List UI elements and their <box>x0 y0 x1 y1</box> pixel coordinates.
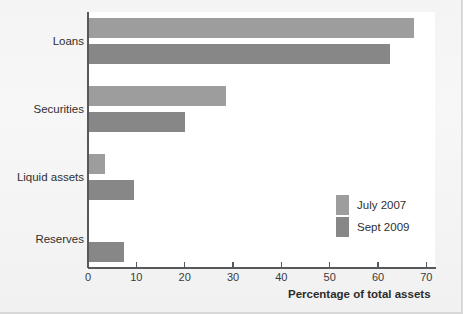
y-axis-category-labels: LoansSecuritiesLiquid assetsReserves <box>0 0 84 314</box>
category-label-liquid-assets: Liquid assets <box>2 171 84 183</box>
x-tick-label-10: 10 <box>130 271 142 283</box>
x-tick-60 <box>377 262 379 268</box>
bar-loans-sept-2009 <box>88 44 390 64</box>
legend-label-july-2007: July 2007 <box>357 199 406 211</box>
x-tick-label-40: 40 <box>275 271 287 283</box>
x-tick-10 <box>136 262 138 268</box>
x-tick-40 <box>281 262 283 268</box>
x-tick-label-0: 0 <box>85 271 91 283</box>
legend-label-sept-2009: Sept 2009 <box>357 221 409 233</box>
bar-loans-july-2007 <box>88 18 414 38</box>
x-axis-line <box>88 267 436 269</box>
category-label-reserves: Reserves <box>2 233 84 245</box>
x-tick-label-30: 30 <box>227 271 239 283</box>
x-tick-70 <box>426 262 428 268</box>
legend-item-sept-2009[interactable]: Sept 2009 <box>336 216 409 238</box>
legend: July 2007 Sept 2009 <box>336 194 409 238</box>
x-tick-label-50: 50 <box>324 271 336 283</box>
bar-securities-sept-2009 <box>88 112 185 132</box>
y-axis-line <box>87 12 89 268</box>
x-axis-title: Percentage of total assets <box>288 288 431 300</box>
category-label-loans: Loans <box>2 35 84 47</box>
legend-swatch-july-2007 <box>336 195 349 215</box>
bar-liquid-assets-july-2007 <box>88 154 105 174</box>
bar-liquid-assets-sept-2009 <box>88 180 134 200</box>
legend-swatch-sept-2009 <box>336 217 349 237</box>
x-tick-50 <box>329 262 331 268</box>
x-tick-0 <box>87 262 89 268</box>
x-tick-label-70: 70 <box>420 271 432 283</box>
bar-securities-july-2007 <box>88 86 226 106</box>
x-tick-label-60: 60 <box>372 271 384 283</box>
x-tick-label-20: 20 <box>179 271 191 283</box>
x-tick-30 <box>232 262 234 268</box>
bar-reserves-sept-2009 <box>88 242 124 262</box>
bar-chart-figure: 010203040506070 LoansSecuritiesLiquid as… <box>0 0 463 314</box>
legend-item-july-2007[interactable]: July 2007 <box>336 194 409 216</box>
category-label-securities: Securities <box>2 103 84 115</box>
x-tick-20 <box>184 262 186 268</box>
